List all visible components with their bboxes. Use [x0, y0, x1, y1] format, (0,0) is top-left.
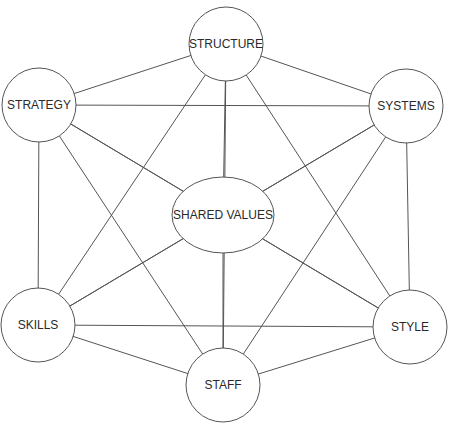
node-label: SYSTEMS	[377, 99, 434, 113]
node-style: STYLE	[373, 290, 447, 364]
node-label: STYLE	[391, 320, 429, 334]
node-label: STRATEGY	[7, 98, 71, 112]
node-structure: STRUCTURE	[189, 7, 263, 81]
node-label: STRUCTURE	[189, 37, 263, 51]
nodes: STRUCTURESTRATEGYSYSTEMSSHARED VALUESSKI…	[1, 7, 447, 422]
node-label: SKILLS	[18, 318, 59, 332]
seven-s-diagram: STRUCTURESTRATEGYSYSTEMSSHARED VALUESSKI…	[0, 0, 451, 430]
node-label: SHARED VALUES	[173, 208, 273, 222]
node-shared-values: SHARED VALUES	[172, 177, 274, 253]
node-staff: STAFF	[186, 348, 260, 422]
node-label: STAFF	[204, 378, 241, 392]
node-systems: SYSTEMS	[369, 69, 443, 143]
edge-strategy-systems	[39, 105, 406, 106]
node-strategy: STRATEGY	[2, 68, 76, 142]
node-skills: SKILLS	[1, 288, 75, 362]
